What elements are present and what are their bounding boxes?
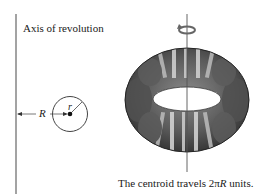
radius-r-label: r — [68, 102, 72, 112]
caption-suffix: units. — [227, 177, 254, 189]
caption-prefix: The centroid travels 2π — [118, 177, 220, 189]
axis-of-revolution-label: Axis of revolution — [23, 23, 104, 34]
caption: The centroid travels 2πR units. — [118, 178, 253, 189]
distance-R-label: R — [39, 108, 46, 119]
centroid-dot — [68, 112, 73, 117]
rotation-arrow-icon — [177, 24, 195, 34]
caption-variable: R — [220, 177, 227, 189]
